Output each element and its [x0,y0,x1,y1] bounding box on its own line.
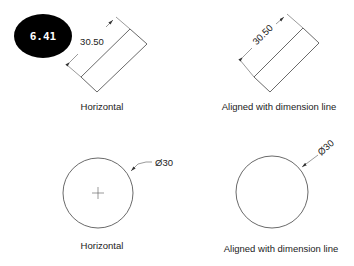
panel-diameter-aligned: Ø30 Aligned with dimension line [224,137,339,254]
figure-number-badge: 6.41 [14,14,72,58]
dimension-line-segment [243,48,252,57]
circle [236,156,308,228]
extension-line [240,60,254,77]
dimension-line-segment [70,54,78,62]
extension-line [116,17,130,29]
panel-linear-horizontal: 30.50 Horizontal [67,17,147,112]
dimension-text-orientation-diagram: 6.41 30.50 Horizontal 30.50 Aligned with… [0,0,354,266]
badge-label: 6.41 [30,30,57,43]
panel-diameter-horizontal: Ø30 Horizontal [63,157,173,251]
panel-caption: Horizontal [81,240,124,251]
dimension-text: 30.50 [250,22,275,47]
panel-linear-aligned: 30.50 Aligned with dimension line [222,14,337,112]
dimension-line-segment [106,20,113,27]
diameter-text: Ø30 [315,137,336,157]
extension-line [67,65,81,77]
dimension-text: 30.50 [80,36,104,47]
extension-line [287,14,303,28]
dimension-line-segment [276,17,284,24]
panel-caption: Horizontal [81,101,124,112]
leader-line [131,162,146,171]
panel-caption: Aligned with dimension line [222,101,337,112]
panel-caption: Aligned with dimension line [224,243,339,254]
leader-line [302,155,318,167]
diameter-text: Ø30 [155,157,173,168]
